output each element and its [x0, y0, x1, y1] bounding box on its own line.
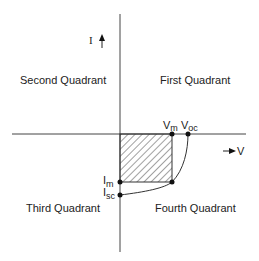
- third-quadrant-label: Third Quadrant: [26, 202, 100, 214]
- voc-label: Voc: [181, 119, 198, 133]
- im-point: [118, 180, 123, 185]
- iv-quadrant-diagram: I V Second Quadrant First Quadrant Third…: [0, 0, 259, 261]
- first-quadrant-label: First Quadrant: [160, 74, 230, 86]
- max-power-point: [170, 180, 175, 185]
- voltage-arrowhead-icon: [229, 148, 236, 154]
- vm-label: Vm: [163, 119, 178, 133]
- current-axis-label: I: [89, 34, 93, 46]
- isc-point: [118, 193, 123, 198]
- fourth-quadrant-label: Fourth Quadrant: [155, 202, 236, 214]
- voltage-axis-label: V: [237, 145, 245, 157]
- second-quadrant-label: Second Quadrant: [20, 74, 106, 86]
- max-power-rectangle: [120, 134, 172, 182]
- current-arrowhead-icon: [99, 34, 105, 41]
